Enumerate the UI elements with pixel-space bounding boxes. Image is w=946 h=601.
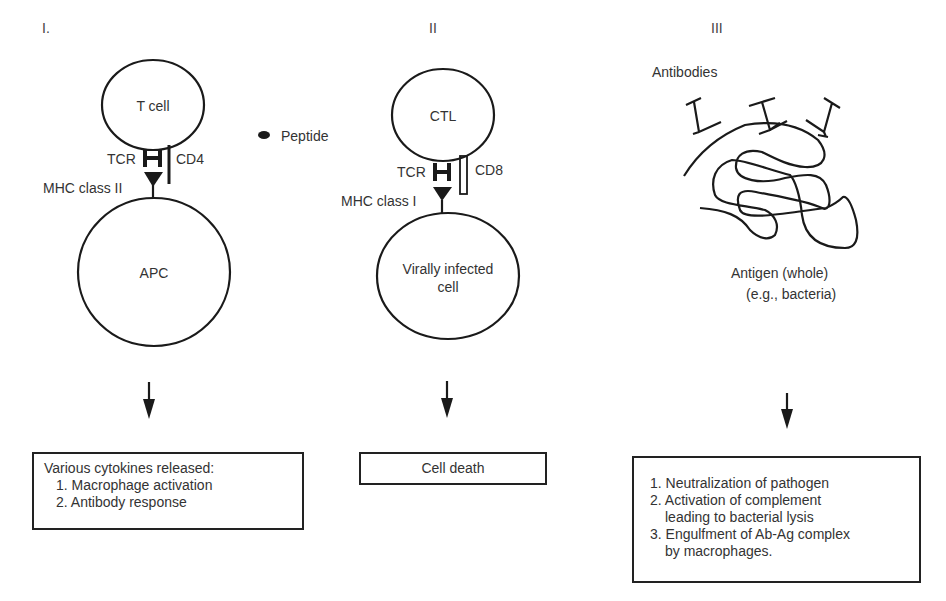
outcome-item: 1. Neutralization of pathogen [650,475,919,492]
arrow-down-icon [143,399,155,419]
antigen-tangle [684,123,857,248]
mhc-class-i-label: MHC class I [341,193,416,209]
mhc-i-icon [433,187,452,201]
outcome-box-i: Various cytokines released: 1. Macrophag… [32,452,304,530]
antibodies-label: Antibodies [652,64,717,80]
mhc-ii-icon [144,172,163,187]
tcr-icon [433,163,451,181]
cd4-label: CD4 [176,151,204,167]
outcome-box-iii: 1. Neutralization of pathogen 2. Activat… [632,456,921,583]
t-cell-label: T cell [123,98,183,114]
infected-cell-label-line: Virally infected [388,260,508,278]
mhc-class-ii-label: MHC class II [43,180,122,196]
arrow-down-icon [781,409,793,429]
infected-cell-label-line: cell [388,278,508,296]
antibody-icon [686,98,721,134]
antibody-icon [806,98,840,137]
outcome-item: leading to bacterial lysis [650,509,919,526]
ctl-label: CTL [413,108,473,124]
outcome-item: 2. Activation of complement [650,492,919,509]
outcome-item: 3. Engulfment of Ab-Ag complex [650,526,919,543]
outcome-item: 1. Macrophage activation [44,477,302,494]
antigen-label: Antigen (whole) (e.g., bacteria) [731,263,836,305]
infected-cell-label: Virally infected cell [388,260,508,296]
cd8-bar [460,156,467,194]
peptide-label: Peptide [281,128,328,144]
panel-numeral-i: I. [42,20,50,36]
antigen-label-line: Antigen (whole) [731,263,836,284]
tcr-label: TCR [107,151,136,167]
cd8-label: CD8 [475,162,503,178]
antibody-icon [749,98,787,134]
tcr-icon [143,149,162,167]
antigen-label-line: (e.g., bacteria) [731,284,836,305]
peptide-icon [258,131,270,139]
outcome-item: 2. Antibody response [44,494,302,511]
outcome-box-ii: Cell death [359,452,547,485]
apc-label: APC [124,265,184,281]
panel-numeral-ii: II [429,20,437,36]
outcome-item: by macrophages. [650,543,919,560]
arrow-down-icon [441,398,453,418]
tcr-label: TCR [397,164,426,180]
outcome-title: Various cytokines released: [44,460,302,477]
panel-numeral-iii: III [711,20,723,36]
